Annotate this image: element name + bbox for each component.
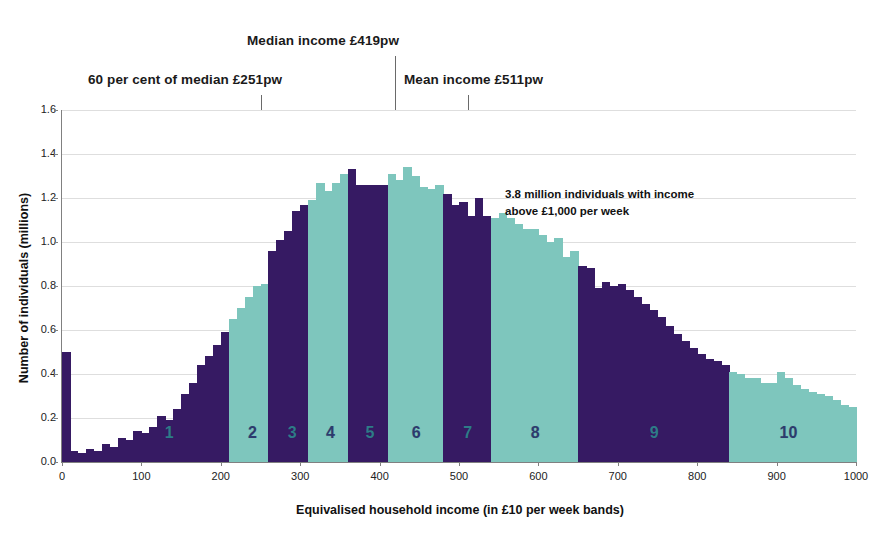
histogram-bars (62, 110, 856, 462)
x-axis-title: Equivalised household income (in £10 per… (62, 503, 858, 517)
y-tick-label: 1.2 (22, 191, 56, 203)
x-tick-label: 600 (529, 470, 547, 482)
y-tick-label: 0.4 (22, 367, 56, 379)
y-tick-mark (54, 374, 58, 375)
y-tick-mark (54, 330, 58, 331)
x-tick-label: 300 (291, 470, 309, 482)
decile-number-5: 5 (366, 424, 375, 442)
decile-number-9: 9 (650, 424, 659, 442)
x-tick-mark (221, 462, 222, 466)
decile-number-6: 6 (412, 424, 421, 442)
annotation-label-median-income: Median income £419pw (247, 33, 399, 48)
x-tick-mark (777, 462, 778, 466)
x-tick-mark (300, 462, 301, 466)
chart-note: 3.8 million individuals with income abov… (505, 186, 694, 221)
y-tick-mark (54, 242, 58, 243)
y-tick-label: 1.6 (22, 103, 56, 115)
x-axis-ticks: 01002003004005006007008009001000 (62, 462, 858, 488)
x-tick-label: 900 (767, 470, 785, 482)
x-tick-label: 100 (132, 470, 150, 482)
x-tick-mark (856, 462, 857, 466)
y-tick-label: 0.8 (22, 279, 56, 291)
x-tick-mark (697, 462, 698, 466)
decile-number-1: 1 (165, 424, 174, 442)
x-tick-mark (141, 462, 142, 466)
x-tick-label: 500 (450, 470, 468, 482)
y-tick-label: 0.2 (22, 411, 56, 423)
y-tick-label: 1.0 (22, 235, 56, 247)
x-tick-label: 700 (609, 470, 627, 482)
x-tick-label: 800 (688, 470, 706, 482)
y-tick-label: 0.6 (22, 323, 56, 335)
decile-number-8: 8 (531, 424, 540, 442)
y-tick-label: 1.4 (22, 147, 56, 159)
y-tick-mark (54, 154, 58, 155)
x-tick-mark (618, 462, 619, 466)
y-tick-mark (54, 286, 58, 287)
y-tick-mark (54, 198, 58, 199)
x-tick-label: 0 (59, 470, 65, 482)
x-tick-label: 1000 (844, 470, 868, 482)
x-tick-label: 200 (212, 470, 230, 482)
decile-labels: 12345678910 (62, 424, 856, 456)
x-tick-mark (459, 462, 460, 466)
x-tick-label: 400 (370, 470, 388, 482)
y-axis-line (61, 110, 62, 463)
x-tick-mark (538, 462, 539, 466)
y-tick-mark (54, 110, 58, 111)
chart-root: 60 per cent of median £251pwMedian incom… (0, 0, 878, 539)
decile-number-4: 4 (326, 424, 335, 442)
decile-number-7: 7 (463, 424, 472, 442)
x-tick-mark (62, 462, 63, 466)
x-tick-mark (380, 462, 381, 466)
y-tick-mark (54, 418, 58, 419)
annotation-label-sixty-per-cent-median: 60 per cent of median £251pw (88, 72, 282, 87)
annotation-label-mean-income: Mean income £511pw (404, 72, 543, 87)
plot-area (62, 110, 856, 462)
y-tick-mark (54, 462, 58, 463)
decile-number-10: 10 (780, 424, 798, 442)
y-axis-ticks: 0.00.20.40.60.81.01.21.41.6 (16, 110, 56, 463)
decile-number-3: 3 (288, 424, 297, 442)
decile-number-2: 2 (248, 424, 257, 442)
y-tick-label: 0.0 (22, 455, 56, 467)
